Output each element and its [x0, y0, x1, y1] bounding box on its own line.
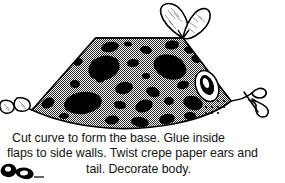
side-wall-flaps [0, 98, 32, 113]
illustration-page: Cut curve to form the base. Glue inside … [0, 0, 285, 183]
cropped-corner-graphic [0, 161, 46, 183]
caption-line-2: flaps to side walls. Twist crepe paper e… [0, 146, 285, 161]
animal-body-craft-illustration [0, 0, 285, 133]
crepe-paper-tail [231, 88, 268, 117]
crepe-paper-ears [161, 3, 210, 38]
ear-right-shape [183, 9, 210, 39]
caption-line-1: Cut curve to form the base. Glue inside [0, 131, 285, 146]
